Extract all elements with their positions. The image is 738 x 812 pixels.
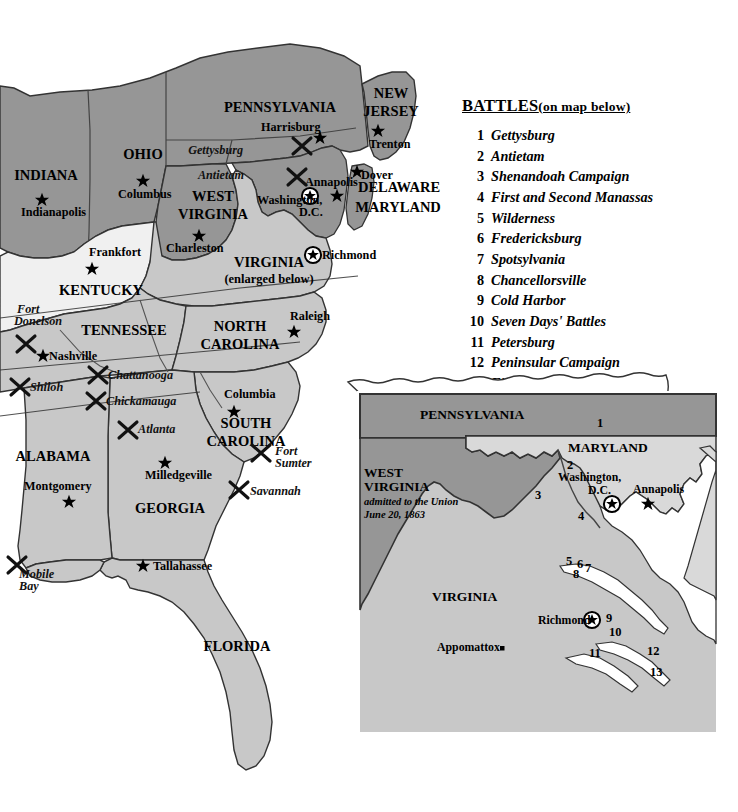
inset-battle-number-8: 8 [573, 567, 579, 581]
inset-battle-number-3: 3 [535, 488, 541, 502]
inset-battle-number-10: 10 [609, 625, 622, 639]
inset-state-label-west: WEST [364, 465, 403, 480]
inset-battle-number-12: 12 [647, 644, 660, 658]
inset-pennsylvania [360, 394, 716, 438]
inset-battle-number-4: 4 [578, 509, 585, 523]
inset-battle-number-5: 5 [566, 554, 572, 568]
inset-marker-appomattox [500, 646, 505, 651]
inset-capital-marker-washington [604, 496, 620, 512]
inset-state-label-pennsylvania: PENNSYLVANIA [420, 407, 525, 422]
inset-city-label-annapolis: Annapolis [633, 482, 685, 496]
inset-city-label-d-c: D.C. [588, 483, 611, 497]
inset-map: PENNSYLVANIAMARYLANDWESTVIRGINIAVIRGINIA… [0, 0, 738, 812]
inset-battle-number-2: 2 [567, 458, 573, 472]
inset-state-label-virginia: VIRGINIA [432, 589, 498, 604]
inset-state-label-virginia: VIRGINIA [364, 479, 430, 494]
inset-city-label-appomattox: Appomattox [437, 640, 500, 654]
inset-state-label-maryland: MARYLAND [568, 440, 648, 455]
wv-admitted-note-line1: admitted to the Union [364, 496, 458, 507]
inset-battle-number-9: 9 [606, 611, 612, 625]
inset-battle-number-13: 13 [650, 665, 663, 679]
inset-city-label-washington: Washington, [558, 470, 621, 484]
inset-city-label-richmond: Richmond [538, 613, 591, 627]
wv-admitted-note-line2: June 20, 1863 [363, 509, 425, 520]
civil-war-map-page: INDIANAOHIOWESTVIRGINIAPENNSYLVANIANEWJE… [0, 0, 738, 812]
inset-battle-number-1: 1 [597, 416, 603, 430]
inset-battle-number-7: 7 [585, 561, 591, 575]
inset-battle-number-11: 11 [589, 646, 601, 660]
